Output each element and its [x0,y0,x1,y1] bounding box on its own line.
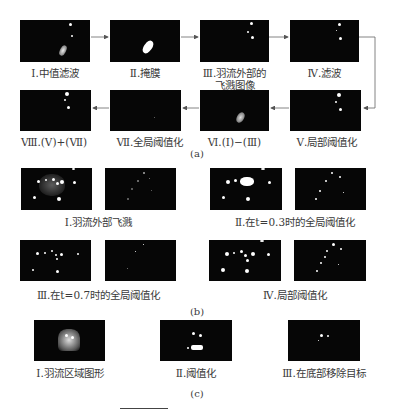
image-plume-region [34,320,105,361]
footnote-rule [120,408,168,409]
image-median-filter [20,20,90,62]
label-b-spatter: Ⅰ.羽流外部飞溅 [21,216,176,228]
label-global-threshold: Ⅶ.全局阈值化 [110,136,190,148]
label-thresholded: Ⅱ.阈值化 [160,367,232,379]
image-b4-right [294,240,366,281]
label-bottom-removed: Ⅲ.在底部移除目标 [274,367,374,379]
image-b2-left [210,168,282,210]
label-b-global-03: Ⅱ.在t=0.3时的全局阈值化 [220,216,370,228]
image-diff-i-iii [200,90,269,131]
image-global-threshold [110,90,181,131]
image-b3-left [20,240,91,281]
label-spatter-image: Ⅲ.羽流外部的 [195,67,274,79]
image-thresholded [160,320,232,361]
label-sum-v-vii: Ⅷ.(Ⅴ)+(Ⅶ) [14,136,94,148]
label-median-filter: Ⅰ.中值滤波 [20,67,90,79]
image-b1-left [21,168,92,210]
image-b2-right [295,168,366,210]
label-mask: Ⅱ.掩膜 [110,67,180,79]
label-local-threshold: Ⅴ.局部阈值化 [286,136,368,148]
caption-a: (a) [180,148,214,159]
image-mask [110,20,180,62]
label-b-local-threshold: Ⅳ.局部阈值化 [220,289,370,301]
image-local-threshold [290,90,361,131]
label-b-global-07: Ⅲ.在t=0.7时的全局阈值化 [21,289,176,301]
caption-c: (c) [180,388,214,399]
label-diff-i-iii: Ⅵ.(Ⅰ)−(Ⅲ) [195,136,274,148]
image-bottom-removed [288,320,360,361]
image-b1-right [105,168,176,210]
image-b4-left [209,240,281,281]
image-spatter-outside-plume [200,20,269,62]
image-b3-right [105,240,176,281]
label-filter: Ⅳ.滤波 [290,67,359,79]
caption-b: (b) [180,306,214,317]
image-filter [290,20,359,62]
label-plume-region: Ⅰ.羽流区域图形 [25,367,115,379]
image-sum-v-vii [20,90,91,131]
